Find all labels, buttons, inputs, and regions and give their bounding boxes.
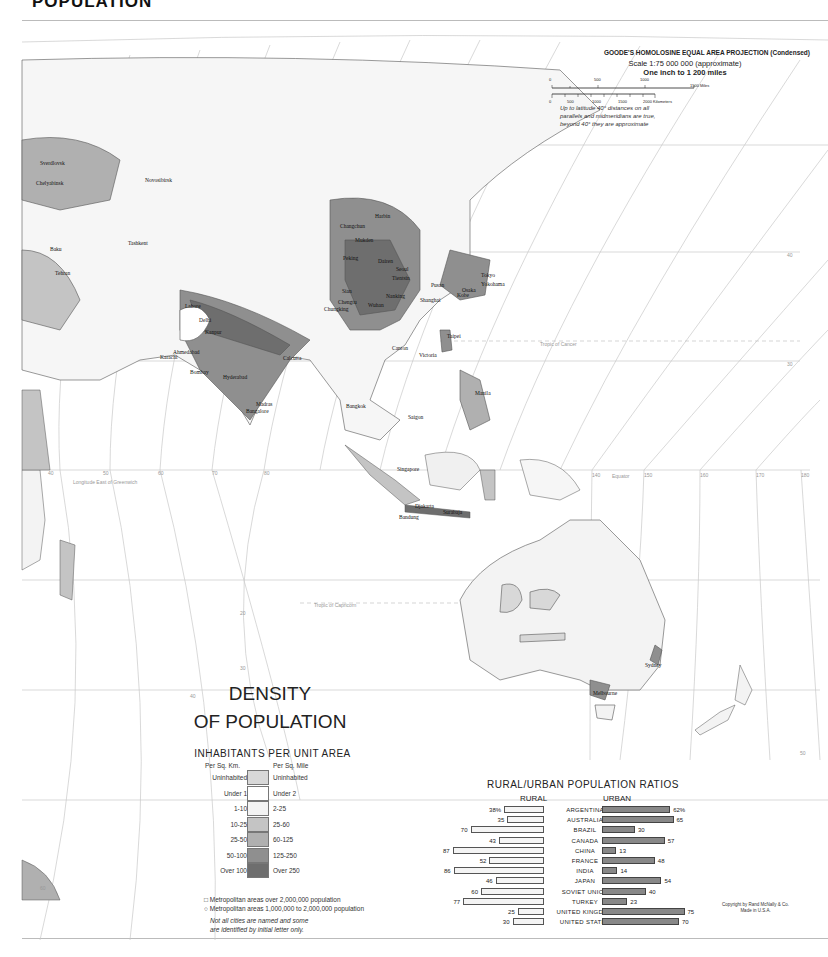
legend-swatch	[247, 801, 269, 816]
rural-bar	[453, 847, 544, 854]
city-label: Hyderabad	[223, 374, 247, 380]
meridian-label: 70	[212, 470, 218, 476]
legend-mile: Uninhabited	[273, 774, 308, 781]
city-label: Madras	[256, 401, 273, 407]
legend-note-2: are identified by initial letter only.	[210, 926, 304, 933]
urban-bar	[602, 918, 679, 925]
city-label: Tashkent	[128, 240, 148, 246]
urban-bar	[602, 826, 635, 833]
ratios-title: RURAL/URBAN POPULATION RATIOS	[487, 779, 679, 790]
rural-value: 86	[431, 868, 451, 874]
ratio-row: 35AUSTRALIA65	[440, 816, 710, 826]
city-label: Yokohama	[481, 281, 505, 287]
landmass-africa	[22, 390, 75, 900]
city-label: Wuhan	[368, 302, 384, 308]
city-label: Bombay	[190, 369, 209, 375]
urban-bar	[602, 847, 616, 854]
parallel-label: 50	[800, 750, 806, 756]
ratio-row: 77TURKEY23	[440, 898, 710, 908]
urban-bar	[602, 837, 665, 844]
rural-value: 87	[430, 848, 450, 854]
meridian-label: 170	[756, 472, 764, 478]
urban-value: 75	[688, 909, 695, 915]
km-tick-0: 0	[549, 99, 551, 104]
legend-swatch	[247, 786, 269, 801]
legend-mile: 125-250	[273, 852, 297, 859]
projection-inch: One inch to 1 200 miles	[560, 68, 810, 77]
legend-row: 1-102-25	[160, 801, 390, 816]
projection-note: Up to latitude 40° distances on all para…	[560, 104, 655, 128]
copyright: Copyright by Rand McNally & Co. Made in …	[722, 902, 789, 914]
city-label: Mukden	[355, 237, 373, 243]
legend-row: 10-2525-60	[160, 817, 390, 832]
legend-km: 50-100	[227, 852, 247, 859]
city-label: Saigon	[408, 414, 423, 420]
urban-value: 62%	[673, 807, 685, 813]
miles-tick-1000: 1000	[640, 77, 649, 82]
city-label: Changchun	[340, 223, 365, 229]
urban-value: 65	[677, 817, 684, 823]
rural-bar	[489, 857, 544, 864]
legend-km: Over 100	[220, 867, 247, 874]
map-annotation: Equator	[612, 473, 630, 479]
ratio-row: 60SOVIET UNION40	[440, 888, 710, 898]
rural-bar	[471, 826, 545, 833]
rural-value: 38%	[481, 807, 501, 813]
city-label: Shanghai	[420, 297, 440, 303]
rural-value: 52	[466, 858, 486, 864]
urban-bar	[602, 888, 646, 895]
urban-value: 70	[682, 919, 689, 925]
urban-bar	[602, 806, 670, 813]
rural-bar	[513, 918, 545, 925]
city-label: Taipei	[447, 333, 461, 339]
city-label: Tokyo	[481, 272, 495, 278]
legend-swatch	[247, 848, 269, 863]
rural-value: 43	[476, 838, 496, 844]
rural-bar	[504, 806, 544, 813]
legend-km: Under 1	[224, 790, 247, 797]
urban-bar	[602, 877, 661, 884]
landmass-new-zealand	[695, 665, 752, 735]
parallel-label: 20	[240, 610, 246, 616]
rural-value: 46	[473, 878, 493, 884]
city-label: Bandung	[399, 514, 419, 520]
city-label: Chengtu	[338, 299, 357, 305]
urban-value: 57	[668, 838, 675, 844]
urban-value: 13	[619, 848, 626, 854]
meridian-label: 50	[103, 470, 109, 476]
legend-row: 25-5060-125	[160, 832, 390, 847]
city-label: Chelyabinsk	[36, 180, 64, 186]
legend-row: Under 1Under 2	[160, 786, 390, 801]
legend-subtitle: INHABITANTS PER UNIT AREA	[160, 748, 385, 759]
legend-swatch	[247, 770, 269, 785]
urban-value: 23	[630, 899, 637, 905]
legend-swatch	[247, 817, 269, 832]
urban-bar	[602, 816, 674, 823]
rural-value: 60	[458, 889, 478, 895]
legend-mile: Over 250	[273, 867, 300, 874]
ratios-urban-label: URBAN	[603, 794, 631, 803]
metro-1m-2m: ○ Metropolitan areas 1,000,000 to 2,000,…	[204, 905, 364, 912]
landmass-indonesia	[345, 445, 580, 518]
meridian-label: 80	[264, 470, 270, 476]
landmass-eurasia	[22, 58, 600, 440]
ratio-row: 87CHINA13	[440, 847, 710, 857]
city-label: Novosibirsk	[145, 177, 172, 183]
city-label: Peking	[343, 255, 358, 261]
city-label: Nanking	[386, 293, 405, 299]
rural-bar	[507, 816, 544, 823]
city-label: Kobe	[457, 292, 469, 298]
parallel-label: 60	[40, 885, 46, 891]
meridian-label: 40	[48, 470, 54, 476]
rural-value: 25	[495, 909, 515, 915]
city-label: Bangalore	[246, 408, 269, 414]
city-label: Tientsin	[392, 275, 410, 281]
ratio-row: 25UNITED KINGDOM75	[440, 908, 710, 918]
city-label: Kanpur	[205, 329, 222, 335]
ratios-rural-label: RURAL	[520, 794, 547, 803]
miles-tick-1500: 1500 Miles	[690, 83, 709, 88]
urban-value: 30	[638, 827, 645, 833]
city-label: Surabaja	[443, 509, 462, 515]
legend-row: 50-100125-250	[160, 848, 390, 863]
urban-value: 54	[664, 878, 671, 884]
